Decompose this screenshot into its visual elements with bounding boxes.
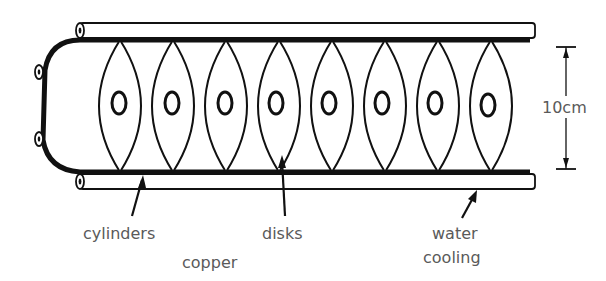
label-copper: copper: [182, 253, 238, 272]
label-cooling: cooling: [423, 248, 481, 267]
label-water: water: [432, 224, 478, 243]
dimension-marker: 10cm: [540, 47, 592, 169]
waveguide-diagram: 10cm cylinders copper disks water coolin…: [0, 0, 606, 281]
label-cylinders: cylinders: [83, 224, 155, 243]
top-cooling-pipe: [76, 23, 535, 38]
label-disks: disks: [262, 224, 303, 243]
dimension-label: 10cm: [542, 98, 587, 117]
